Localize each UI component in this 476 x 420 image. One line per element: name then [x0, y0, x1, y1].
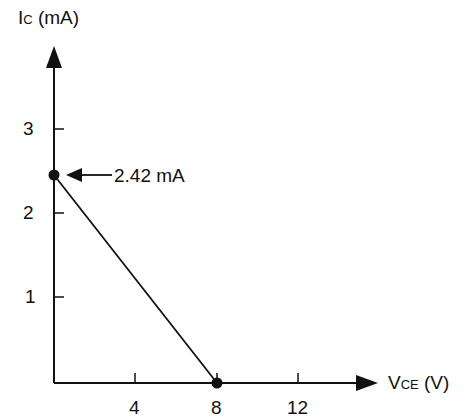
x-tick-label: 4: [129, 398, 140, 417]
y-axis-label: IC (mA): [18, 8, 79, 27]
annotation-label: 2.42 mA: [114, 166, 185, 185]
saturation-point: [49, 170, 60, 181]
x-axis-arrow-icon: [356, 375, 378, 391]
cutoff-point: [212, 378, 223, 389]
y-tick-label: 2: [23, 203, 34, 222]
y-axis: [46, 46, 64, 383]
x-axis-label: VCE (V): [388, 373, 449, 392]
annotation-arrow-icon: [66, 168, 112, 182]
x-tick-label: 12: [287, 398, 308, 417]
load-line: [54, 175, 217, 383]
y-tick-label: 1: [25, 287, 36, 306]
y-tick-label: 3: [23, 119, 34, 138]
chart-canvas: [0, 0, 476, 420]
x-tick-label: 8: [211, 398, 222, 417]
y-axis-arrow-icon: [46, 46, 62, 68]
